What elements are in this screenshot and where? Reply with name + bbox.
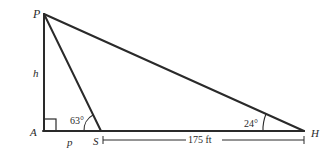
label-point-s: S [93, 135, 99, 147]
triangle-diagram: P A S H h p 63° 24° 175 ft [0, 0, 336, 157]
angle-arc-h [263, 114, 266, 131]
segment-ph [44, 14, 304, 131]
label-base-p: p [66, 136, 73, 148]
angle-arc-s [84, 115, 93, 131]
label-height-h: h [33, 67, 39, 79]
label-point-a: A [29, 126, 37, 138]
right-angle-marker [44, 119, 56, 131]
label-point-p: P [32, 7, 41, 21]
label-point-h: H [310, 127, 320, 139]
label-distance-sh: 175 ft [188, 134, 212, 145]
label-angle-h: 24° [244, 118, 258, 129]
label-angle-s: 63° [70, 115, 84, 126]
segment-ps [44, 14, 101, 131]
